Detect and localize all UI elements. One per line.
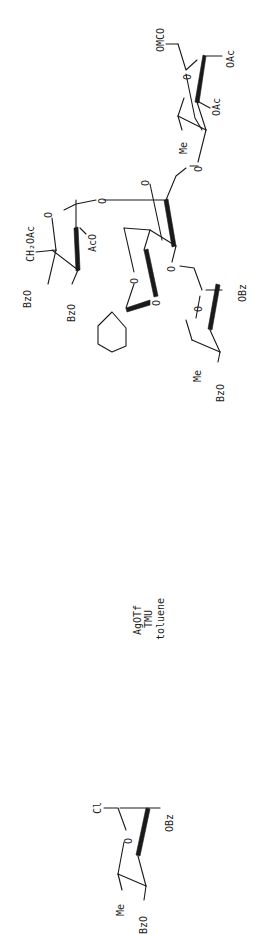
label-link-o-3: O [166,266,177,272]
reagent-tmu: TMU [143,610,154,628]
label-ch2oac: CH₂OAc [25,226,36,262]
label-ring-o-central: O [140,180,151,186]
label-bzo-2: BzO [66,304,77,322]
reagent-agotf: AgOTf [132,605,143,635]
label-acetal-o-1: O [129,278,140,284]
label-oac-1: OAc [225,50,236,68]
label-bzo-1: BzO [22,290,33,308]
label-omco: OMCO [155,28,166,52]
label-cl: Cl [92,802,103,814]
donor-structure: Cl O OBz Me BzO [92,802,175,934]
label-ring-o-bottom: O [193,306,204,312]
ring-bottom [180,266,222,362]
reagent-block: AgOTf TMU toluene [132,598,166,640]
ring-central [104,166,198,297]
label-donor-obz: OBz [164,814,175,832]
product-structure: OMCO OAc OAc O Me O O O O CH₂OAc AcO BzO… [22,28,248,402]
label-acetal-o-2: O [151,300,162,306]
label-link-o-2: O [97,198,108,204]
label-me-top: Me [178,142,189,154]
label-me-bottom: Me [192,370,203,382]
label-bzo-3: BzO [215,384,226,402]
label-aco: AcO [87,234,98,252]
reagent-solvent: toluene [155,598,166,640]
label-donor-bzo: BzO [138,916,149,934]
reaction-scheme: OMCO OAc OAc O Me O O O O CH₂OAc AcO BzO… [0,0,255,934]
label-ring-o-gal: O [43,212,54,218]
label-obz: OBz [237,284,248,302]
label-ring-o-top: O [182,74,193,80]
label-donor-ring-o: O [123,838,134,844]
cyclohexylidene [98,284,150,352]
label-link-o-1: O [193,166,204,172]
label-oac-2: OAc [211,98,222,116]
label-donor-me: Me [115,904,126,916]
